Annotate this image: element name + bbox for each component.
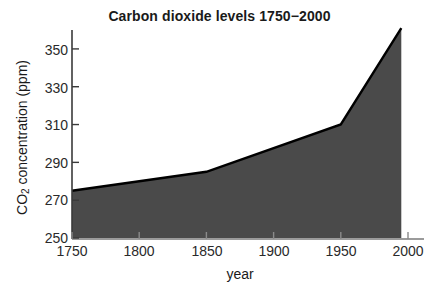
area-fill [72,28,401,238]
chart-figure: Carbon dioxide levels 1750−2000 CO2 conc… [0,0,439,293]
plot-area [0,0,439,293]
area-series-group [72,28,401,238]
